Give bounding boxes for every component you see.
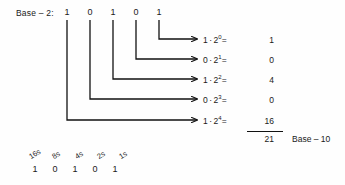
equation-result: 16 <box>252 116 274 126</box>
binary-digit-top: 1 <box>108 7 118 17</box>
equals-sign: = <box>222 75 227 85</box>
equation-result: 4 <box>252 75 274 85</box>
connector-path-bit-8s <box>90 20 197 99</box>
connector-path-bit-4s <box>113 20 197 79</box>
place-value-label: 4s <box>73 149 84 161</box>
sum-divider-line <box>247 131 283 132</box>
binary-digit-bottom: 1 <box>70 164 80 174</box>
equation-term: 1·24= <box>203 116 255 126</box>
equals-sign: = <box>222 35 227 45</box>
equation-term: 0·23= <box>203 95 255 105</box>
equals-sign: = <box>222 116 227 126</box>
equals-sign: = <box>222 55 227 65</box>
binary-digit-top: 1 <box>62 7 72 17</box>
binary-digit-top: 0 <box>131 7 141 17</box>
equation-term: 1·20= <box>203 35 255 45</box>
binary-conversion-diagram: Base – 2: 1 0 1 0 1 1·20= 1 0·21= 0 1·22… <box>0 0 345 185</box>
place-value-label: 2s <box>95 149 106 161</box>
equation-result: 1 <box>252 35 274 45</box>
equation-term: 1·22= <box>203 75 255 85</box>
place-value-label: 16s <box>27 147 42 161</box>
equation-result: 0 <box>252 95 274 105</box>
base-10-label: Base – 10 <box>292 134 330 144</box>
sum-total: 21 <box>252 134 274 144</box>
binary-digit-bottom: 1 <box>30 164 40 174</box>
place-value-labels: 16s 8s 4s 2s 1s <box>28 139 148 161</box>
equals-sign: = <box>222 95 227 105</box>
base-2-label: Base – 2: <box>16 8 54 18</box>
binary-digit-bottom: 0 <box>90 164 100 174</box>
connector-path-bit-1s <box>159 20 197 39</box>
equation-result: 0 <box>252 55 274 65</box>
binary-digit-top: 0 <box>85 7 95 17</box>
binary-digit-bottom: 0 <box>50 164 60 174</box>
equation-term: 0·21= <box>203 55 255 65</box>
connector-path-bit-2s <box>136 20 197 59</box>
place-value-label: 1s <box>117 149 128 161</box>
place-value-label: 8s <box>50 149 61 161</box>
binary-digit-top: 1 <box>154 7 164 17</box>
connector-path-bit-16s <box>67 20 197 120</box>
binary-digit-bottom: 1 <box>110 164 120 174</box>
